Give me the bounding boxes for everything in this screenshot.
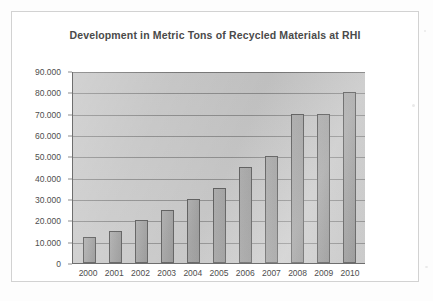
scan-speck	[425, 266, 428, 268]
x-axis-tick-label: 2007	[258, 268, 284, 278]
y-axis-tick-label: 70.000	[7, 110, 61, 120]
x-axis-tick-label: 2008	[285, 268, 311, 278]
bar-2003[interactable]	[161, 210, 174, 263]
y-axis-tick-label: 40.000	[7, 174, 61, 184]
chart-title: Development in Metric Tons of Recycled M…	[12, 29, 418, 41]
bar-slot	[337, 72, 363, 263]
scanned-chart-page: Development in Metric Tons of Recycled M…	[0, 0, 433, 301]
bar-slot	[259, 72, 285, 263]
bar-2005[interactable]	[213, 188, 226, 263]
chart-frame: Development in Metric Tons of Recycled M…	[11, 11, 419, 282]
bar-2009[interactable]	[317, 114, 330, 263]
bar-slot	[180, 72, 206, 263]
bar-slot	[76, 72, 102, 263]
bar-2000[interactable]	[83, 237, 96, 263]
y-axis-tick-label: 80.000	[7, 88, 61, 98]
plot-area-wrapper	[72, 72, 365, 264]
bar-2010[interactable]	[343, 92, 356, 263]
bar-series	[73, 72, 365, 263]
x-axis-tick-label: 2003	[154, 268, 180, 278]
x-axis-tick-label: 2002	[127, 268, 153, 278]
bar-2004[interactable]	[187, 199, 200, 263]
bar-2006[interactable]	[239, 167, 252, 263]
bar-2002[interactable]	[135, 220, 148, 263]
bar-2001[interactable]	[109, 231, 122, 263]
bar-slot	[102, 72, 128, 263]
y-axis-tick-label: 60.000	[7, 131, 61, 141]
x-axis-tick-label: 2009	[311, 268, 337, 278]
x-axis-tick-label: 2005	[206, 268, 232, 278]
bar-slot	[154, 72, 180, 263]
scan-speck	[424, 30, 426, 32]
x-axis-tick-label: 2000	[75, 268, 101, 278]
x-axis-tick-label: 2006	[232, 268, 258, 278]
y-axis-tick-label: 20.000	[7, 216, 61, 226]
x-axis-tick-label: 2004	[180, 268, 206, 278]
bar-slot	[206, 72, 232, 263]
x-axis-tick-label: 2010	[337, 268, 363, 278]
bar-slot	[128, 72, 154, 263]
plot-area	[72, 72, 365, 264]
bar-2008[interactable]	[291, 114, 304, 263]
y-axis-tick-label: 0	[7, 259, 61, 269]
bar-2007[interactable]	[265, 156, 278, 263]
bar-slot	[311, 72, 337, 263]
y-axis-tick-label: 50.000	[7, 152, 61, 162]
y-axis-tick-label: 90.000	[7, 67, 61, 77]
bar-slot	[285, 72, 311, 263]
y-axis-tick-label: 30.000	[7, 195, 61, 205]
y-axis-tick-label: 10.000	[7, 238, 61, 248]
bar-slot	[233, 72, 259, 263]
x-axis-tick-labels: 2000200120022003200420052006200720082009…	[72, 268, 365, 278]
x-axis-tick-label: 2001	[101, 268, 127, 278]
